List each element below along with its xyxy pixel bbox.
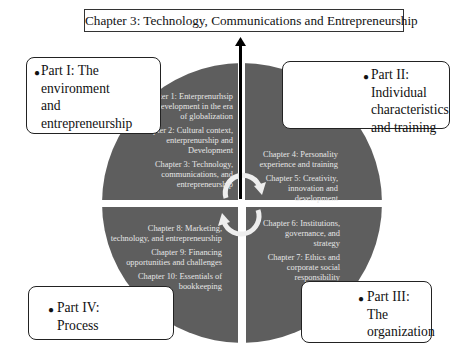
- bullet-icon: ●: [34, 64, 40, 82]
- part-2-box: ● Part II: Individual characteristics an…: [282, 61, 450, 129]
- chapter-3: Chapter 3: Technology, communications, a…: [140, 160, 233, 190]
- bullet-icon: ●: [358, 290, 364, 308]
- part-4-line: Process: [57, 317, 167, 335]
- part-3-line: organization: [367, 323, 425, 341]
- chapter-7: Chapter 7: Ethics and corporate social r…: [262, 253, 340, 283]
- bullet-icon: ●: [363, 68, 369, 86]
- chapter-4: Chapter 4: Personality experience and tr…: [258, 150, 338, 170]
- part-1-line: environment: [41, 80, 154, 98]
- part-3-box: ● Part III: The organization: [301, 281, 432, 343]
- part-1-line: and: [41, 97, 154, 115]
- part-2-line: Part II:: [371, 66, 443, 84]
- chapter-6: Chapter 6: Institutions, governance, and…: [262, 219, 340, 249]
- part-2-line: and training: [371, 119, 443, 137]
- part-1-line: entrepreneurship: [41, 115, 154, 133]
- quadrant-top-right-text: Chapter 4: Personality experience and tr…: [258, 150, 338, 208]
- bullet-icon: ●: [48, 301, 54, 319]
- chapter-8: Chapter 8: Marketing, technology, and en…: [108, 224, 222, 244]
- part-1-box: ● Part I: The environment and entreprene…: [26, 57, 161, 134]
- quadrant-bottom-right-text: Chapter 6: Institutions, governance, and…: [262, 219, 340, 287]
- part-4-line: Part IV:: [57, 299, 167, 317]
- part-2-line: characteristics: [371, 101, 443, 119]
- part-3-line: The: [367, 306, 425, 324]
- part-4-box: ● Part IV: Process: [28, 286, 174, 340]
- chapter-9: Chapter 9: Financing opportunities and c…: [108, 248, 222, 268]
- part-1-line: Part I: The: [41, 62, 154, 80]
- part-2-line: Individual: [371, 84, 443, 102]
- chapter-5: Chapter 5: Creativity, innovation and de…: [258, 174, 338, 204]
- part-3-line: Part III:: [367, 288, 425, 306]
